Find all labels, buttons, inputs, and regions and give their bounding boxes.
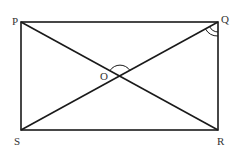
geometry-diagram: P Q R S O — [0, 0, 240, 151]
vertex-label-r: R — [217, 135, 225, 147]
vertex-label-p: P — [12, 15, 18, 27]
angle-arc-o — [110, 65, 130, 70]
vertex-label-s: S — [14, 135, 20, 147]
angle-arc-q-inner — [210, 27, 219, 33]
vertex-label-q: Q — [221, 13, 229, 25]
center-label-o: O — [100, 70, 108, 82]
